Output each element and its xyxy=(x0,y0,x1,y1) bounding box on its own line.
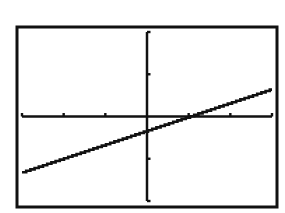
x-tick xyxy=(62,113,64,117)
graph-plot xyxy=(0,0,285,213)
axes xyxy=(22,32,272,201)
y-tick xyxy=(147,158,151,160)
y-tick xyxy=(147,73,151,75)
x-tick xyxy=(104,113,106,117)
x-tick xyxy=(229,113,231,117)
x-tick xyxy=(271,113,273,117)
calculator-graph-screen xyxy=(0,0,285,213)
y-tick xyxy=(147,200,151,202)
x-tick xyxy=(21,113,23,117)
y-tick xyxy=(147,31,151,33)
